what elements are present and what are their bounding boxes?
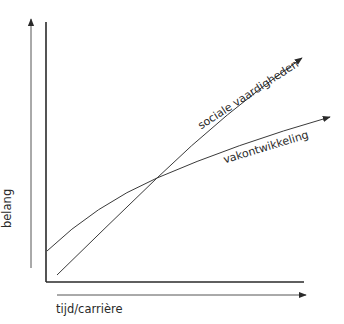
- diagram-canvas: [0, 0, 344, 324]
- x-axis-label: tijd/carrière: [56, 304, 123, 316]
- y-axis-label: belang: [2, 189, 14, 228]
